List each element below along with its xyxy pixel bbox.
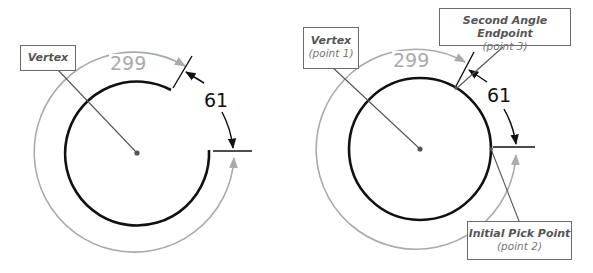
right-diagram [316, 47, 535, 249]
label-title: Vertex [21, 51, 75, 64]
left-vertex-label: Vertex [20, 45, 76, 71]
left-minor-angle-value: 61 [204, 91, 228, 110]
minor-angle-arc-lower [504, 109, 516, 144]
right-major-angle-value: 299 [392, 51, 430, 70]
second-angle-endpoint-label: Second Angle Endpoint (point 3) [439, 8, 571, 46]
left-diagram [34, 52, 252, 252]
label-title: Initial Pick Point [468, 227, 571, 240]
extension-line-top [455, 52, 474, 88]
initial-pick-point-label: Initial Pick Point (point 2) [467, 221, 572, 260]
vertex-point [134, 150, 139, 155]
minor-angle-arc-upper [186, 72, 204, 83]
initial-pick-point [489, 147, 493, 151]
minor-angle-arc-lower [222, 112, 233, 148]
minor-angle-arc-upper [469, 70, 487, 82]
second-endpoint-leader [457, 47, 503, 88]
second-endpoint-point [454, 86, 458, 90]
vertex-point [417, 146, 422, 151]
label-title: Second Angle Endpoint [440, 14, 570, 40]
right-vertex-label: Vertex (point 1) [303, 27, 359, 69]
label-sub: (point 1) [304, 47, 358, 60]
label-title: Vertex [304, 34, 358, 47]
label-sub: (point 3) [440, 40, 570, 53]
left-major-angle-value: 299 [109, 54, 147, 73]
label-sub: (point 2) [468, 240, 571, 253]
right-minor-angle-value: 61 [487, 86, 511, 105]
